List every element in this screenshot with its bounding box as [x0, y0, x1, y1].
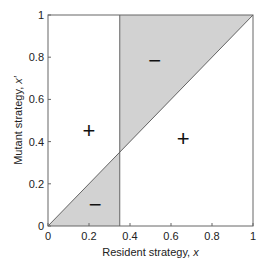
y-tick-label: 1	[38, 9, 44, 21]
y-tick-label: 0.6	[29, 93, 44, 105]
y-tick-label: 0.4	[29, 136, 44, 148]
x-tick-label: 0.6	[163, 230, 178, 242]
plus-sign-annotation: +	[83, 118, 96, 143]
x-tick-label: 0.2	[81, 230, 96, 242]
y-tick-label: 0.2	[29, 178, 44, 190]
y-axis-label: Mutant strategy, x′	[12, 75, 24, 165]
x-tick-label: 0.4	[122, 230, 137, 242]
x-axis-label-variable: x	[192, 246, 199, 258]
x-axis-label: Resident strategy, x	[102, 246, 199, 258]
minus-sign-annotation: −	[148, 48, 161, 73]
y-tick-label: 0	[38, 220, 44, 232]
x-axis-label-text: Resident strategy,	[102, 246, 193, 258]
x-tick-label: 0	[45, 230, 51, 242]
x-tick-label: 0.8	[204, 230, 219, 242]
y-axis-label-variable: x′	[12, 75, 24, 85]
x-tick-label: 1	[250, 230, 256, 242]
y-axis-label-text: Mutant strategy,	[12, 84, 24, 165]
plus-sign-annotation: +	[177, 126, 190, 151]
pip-chart: 00.20.40.60.81 00.20.40.60.81 ++−− Resid…	[0, 0, 270, 269]
y-tick-label: 0.8	[29, 51, 44, 63]
minus-sign-annotation: −	[89, 192, 102, 217]
